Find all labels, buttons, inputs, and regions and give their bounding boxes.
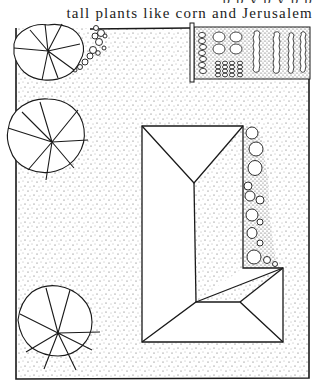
fence-post bbox=[190, 23, 194, 82]
tree-top-left bbox=[14, 24, 84, 80]
garden-plan-illustration bbox=[0, 0, 317, 387]
vegetable-beds bbox=[194, 27, 310, 79]
